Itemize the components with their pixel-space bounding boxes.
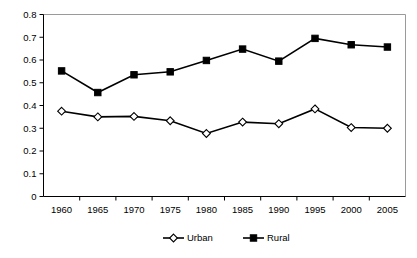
data-point-urban-1985 [239, 118, 247, 126]
data-point-rural-1990 [276, 58, 282, 64]
x-axis: 1960196519701975198019851990199520002005 [51, 197, 398, 215]
legend-label-urban: Urban [187, 232, 213, 243]
data-point-rural-1980 [203, 57, 209, 63]
data-point-urban-2000 [347, 124, 355, 132]
data-point-urban-1970 [130, 113, 138, 121]
data-point-rural-1985 [239, 46, 245, 52]
data-point-rural-1960 [58, 68, 64, 74]
data-point-urban-1960 [58, 107, 66, 115]
data-point-rural-1970 [131, 72, 137, 78]
y-tick-label: 0 [31, 191, 36, 202]
y-tick-label: 0.7 [23, 32, 36, 43]
y-tick-label: 0.1 [23, 168, 36, 179]
data-point-rural-2005 [384, 44, 390, 50]
data-point-urban-1975 [166, 117, 174, 125]
legend-item-rural: Rural [243, 232, 290, 243]
data-point-urban-1980 [203, 130, 211, 138]
x-tick-label: 1970 [123, 204, 144, 215]
chart-canvas: 00.10.20.30.40.50.60.70.8196019651970197… [0, 0, 417, 258]
x-tick-label: 1980 [196, 204, 217, 215]
legend-item-urban: Urban [163, 232, 213, 243]
y-tick-label: 0.2 [23, 145, 36, 156]
x-tick-label: 2000 [341, 204, 362, 215]
series-rural [58, 35, 390, 96]
x-tick-label: 1975 [160, 204, 181, 215]
data-point-rural-1995 [312, 35, 318, 41]
legend-label-rural: Rural [267, 232, 290, 243]
y-tick-label: 0.8 [23, 9, 36, 20]
legend-marker-rural [250, 235, 256, 241]
data-point-urban-1990 [275, 120, 283, 128]
data-point-rural-1965 [95, 89, 101, 95]
data-point-urban-1995 [311, 105, 319, 113]
x-tick-label: 1985 [232, 204, 253, 215]
x-tick-label: 1960 [51, 204, 72, 215]
y-tick-label: 0.3 [23, 123, 36, 134]
legend: UrbanRural [163, 232, 290, 243]
data-point-rural-1975 [167, 69, 173, 75]
series-line-rural [62, 38, 388, 92]
legend-marker-urban [170, 234, 178, 242]
series-line-urban [62, 109, 388, 134]
y-tick-label: 0.4 [23, 100, 36, 111]
x-tick-label: 1990 [268, 204, 289, 215]
x-tick-label: 2005 [377, 204, 398, 215]
data-point-urban-2005 [384, 124, 392, 132]
series-urban [58, 105, 392, 137]
x-tick-label: 1965 [87, 204, 108, 215]
y-axis: 00.10.20.30.40.50.60.70.8 [23, 9, 43, 202]
y-tick-label: 0.6 [23, 54, 36, 65]
data-point-urban-1965 [94, 113, 102, 121]
y-tick-label: 0.5 [23, 77, 36, 88]
x-tick-label: 1995 [304, 204, 325, 215]
data-point-rural-2000 [348, 42, 354, 48]
line-chart: 00.10.20.30.40.50.60.70.8196019651970197… [0, 0, 417, 258]
